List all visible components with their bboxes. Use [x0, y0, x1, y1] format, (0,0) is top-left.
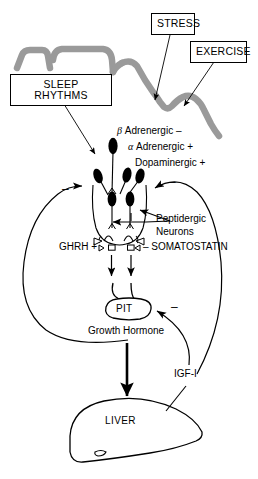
peptidergic-neurons	[108, 192, 135, 229]
hypothalamus-left-feedback-sign: –	[62, 183, 69, 195]
pituitary-feedback-sign: –	[171, 301, 178, 313]
liver-label: LIVER	[105, 416, 136, 426]
peptidergic-label-line1: Peptidergic	[156, 213, 206, 226]
peptidergic-label-line2: Neurons	[156, 226, 206, 239]
beta-adrenergic-text: Adrenergic	[125, 125, 173, 136]
ghrh-neuron-soma	[108, 192, 117, 207]
beta-symbol: β	[117, 125, 122, 136]
igf1-label: IGF-I	[174, 369, 197, 379]
growth-hormone-label: Growth Hormone	[88, 326, 164, 336]
ghrh-sign: +	[91, 241, 97, 252]
hypothalamus-right-feedback-sign: –	[169, 176, 176, 188]
pathway-line-layer	[0, 0, 258, 479]
sleep-rhythms-box[interactable]: SLEEP RHYTHMS	[10, 74, 112, 106]
beta-adrenergic-sign: –	[176, 125, 182, 136]
alpha-adrenergic-text: Adrenergic	[136, 141, 184, 152]
igf1-pituitary-feedback-arrow	[157, 311, 189, 365]
aminergic-neuron	[108, 138, 118, 194]
beta-adrenergic-label: β β Adrenergic Adrenergic –	[117, 126, 181, 136]
alpha-symbol: α	[128, 141, 133, 152]
somatostatin-label: – SOMATOSTATIN	[143, 242, 228, 252]
alpha-adrenergic-sign: +	[187, 141, 193, 152]
igf1-leader-line	[166, 386, 186, 411]
peptidergic-neurons-label: Peptidergic Neurons	[156, 213, 206, 238]
ghrh-name: GHRH	[59, 241, 88, 252]
portal-transport-arrows	[112, 255, 132, 276]
pituitary-label: PIT	[116, 304, 132, 314]
ghrh-label: GHRH +	[59, 242, 97, 252]
somatostatin-name: SOMATOSTATIN	[151, 241, 227, 252]
dopaminergic-name: Dopaminergic	[135, 157, 197, 168]
exercise-box[interactable]: EXERCISE	[190, 41, 247, 63]
somatostatin-neuron-soma	[126, 192, 135, 207]
dopaminergic-sign: +	[199, 157, 205, 168]
somatostatin-sign: –	[143, 241, 149, 252]
stress-arrow	[155, 35, 170, 100]
liver-shape	[70, 398, 202, 462]
afferent-neuron-somas	[91, 167, 146, 185]
aminergic-neuron-soma	[108, 138, 117, 154]
igf1-hypothalamus-feedback-arrow	[155, 182, 222, 374]
afferent-neurons	[100, 180, 139, 195]
dopaminergic-label: Dopaminergic +	[135, 158, 205, 168]
exercise-arrow	[184, 59, 216, 106]
stress-box[interactable]: STRESS	[151, 13, 195, 35]
alpha-adrenergic-label: α Adrenergic +	[128, 142, 193, 152]
growth-hormone-regulation-diagram: SLEEP RHYTHMS STRESS EXERCISE β β Adrene…	[0, 0, 258, 479]
